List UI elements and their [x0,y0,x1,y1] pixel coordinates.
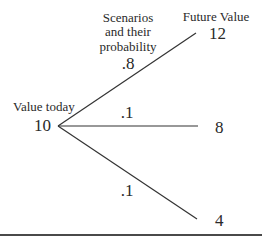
future-value-middle: 8 [215,119,224,136]
future-value-header: Future Value [183,10,250,23]
branch-probability-middle: .1 [121,104,134,121]
scenarios-header-line2: and their [105,25,151,38]
scenarios-header-line3: probability [99,40,156,53]
bottom-rule [0,234,262,236]
branch-probability-down: .1 [121,182,134,199]
future-value-down: 4 [215,212,224,229]
root-label: Value today [13,100,75,113]
root-value: 10 [34,117,51,134]
scenarios-header-line1: Scenarios [103,11,154,24]
future-value-up: 12 [209,25,226,42]
branch-line-down [58,126,197,219]
branch-probability-up: .8 [122,55,135,72]
